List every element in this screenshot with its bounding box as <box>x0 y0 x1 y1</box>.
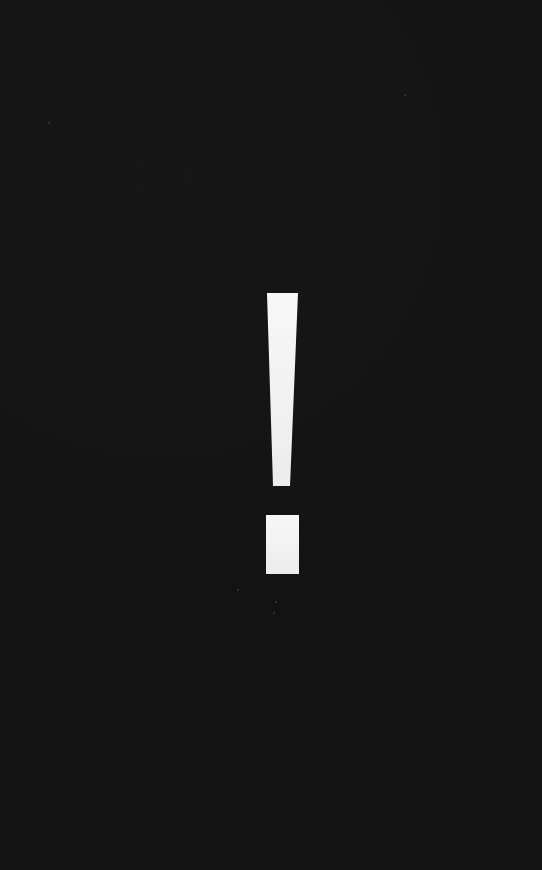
noise-speck <box>275 601 277 603</box>
noise-speck <box>237 589 239 591</box>
warning-canvas: ! <box>0 0 542 870</box>
noise-speck <box>404 94 406 96</box>
exclamation-bar <box>267 293 298 486</box>
noise-speck <box>273 612 275 614</box>
noise-speck <box>48 122 50 124</box>
exclamation-mark-icon <box>0 0 542 870</box>
exclamation-dot <box>266 515 299 574</box>
